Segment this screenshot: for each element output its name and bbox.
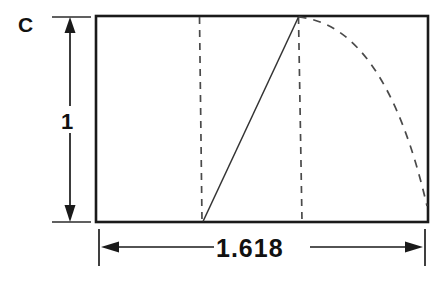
golden-ratio-figure: C 1 1.618 [0,0,446,282]
width-dimension-label: 1.618 [216,234,284,262]
height-dimension-label: 1 [61,109,73,134]
corner-label-c: C [18,13,33,36]
diagram-canvas: C 1 1.618 [0,0,446,282]
